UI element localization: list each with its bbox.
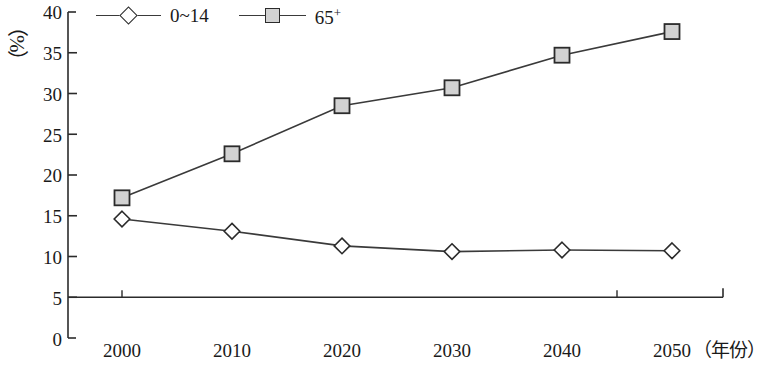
data-point-65--2000[interactable] [115, 190, 130, 205]
data-point-65--2040[interactable] [555, 48, 570, 63]
data-point-0-14-2030[interactable] [444, 244, 460, 260]
series-line-65- [122, 32, 672, 198]
series-group [114, 24, 680, 259]
data-point-0-14-2050[interactable] [664, 243, 680, 259]
data-point-0-14-2000[interactable] [114, 211, 130, 227]
data-point-65--2050[interactable] [665, 24, 680, 39]
data-point-65--2020[interactable] [335, 98, 350, 113]
baseline-5 [68, 288, 723, 297]
y-tick-marks [68, 53, 77, 298]
chart-container: （%） 40 35 30 25 20 15 10 5 0 0~14 65+ 20… [0, 0, 776, 373]
data-point-65--2030[interactable] [445, 80, 460, 95]
series-line-0-14 [122, 219, 672, 252]
data-point-0-14-2040[interactable] [554, 242, 570, 258]
data-point-0-14-2010[interactable] [224, 223, 240, 239]
data-point-0-14-2020[interactable] [334, 238, 350, 254]
plot-area [0, 0, 776, 373]
data-point-65--2010[interactable] [225, 146, 240, 161]
